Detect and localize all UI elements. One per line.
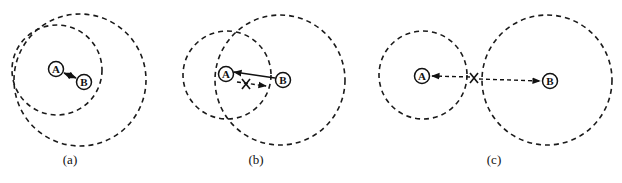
- blocked-link-arrow-to-a: [432, 76, 470, 77]
- node-label: A: [52, 63, 60, 75]
- x-mark-icon: [242, 79, 250, 89]
- panel-caption: (c): [487, 152, 501, 167]
- panel-caption: (b): [248, 152, 263, 167]
- panel-a: A B (a): [12, 14, 146, 167]
- x-mark-icon: [470, 73, 478, 83]
- node-label: B: [546, 75, 554, 87]
- diagram-canvas: A B (a) A B (b): [0, 0, 622, 183]
- node-a: A: [49, 62, 64, 77]
- blocked-link-arrow: [237, 82, 266, 86]
- blocked-link-arrow-to-b: [479, 79, 540, 81]
- one-way-link-arrow: [234, 72, 275, 78]
- bidirectional-link-arrow: [64, 73, 76, 78]
- panel-caption: (a): [63, 152, 77, 167]
- node-b: B: [276, 73, 291, 88]
- node-b: B: [543, 74, 558, 89]
- node-a: A: [219, 67, 234, 82]
- node-label: B: [279, 74, 287, 86]
- node-label: A: [222, 68, 230, 80]
- node-label: A: [418, 70, 426, 82]
- node-b: B: [77, 75, 92, 90]
- node-a: A: [415, 69, 430, 84]
- panel-c: A B (c): [379, 15, 612, 167]
- node-label: B: [80, 76, 88, 88]
- panel-b: A B (b): [183, 15, 345, 167]
